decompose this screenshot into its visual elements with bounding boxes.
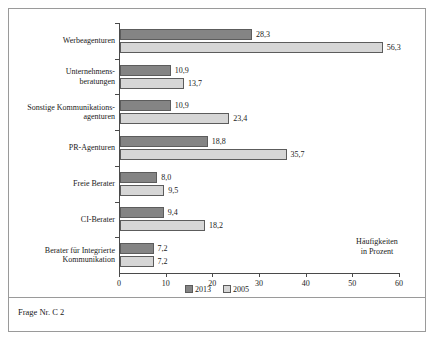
bar-value-label: 56,3 (387, 42, 401, 53)
x-axis-tick (166, 273, 167, 277)
x-axis-tick (306, 273, 307, 277)
bar-2005 (120, 256, 154, 267)
bar-value-label: 18,8 (212, 136, 226, 147)
bar-2005 (120, 185, 164, 196)
bar-group: 18,835,7 (120, 136, 400, 160)
y-axis-tick (115, 237, 119, 238)
chart-plot-container: WerbeagenturenUnternehmens-beratungenSon… (9, 9, 425, 296)
chart-legend: 20132005 (9, 285, 425, 295)
category-label: PR-Agenturen (11, 143, 115, 153)
bar-2013 (120, 29, 252, 40)
chart-figure: WerbeagenturenUnternehmens-beratungenSon… (8, 8, 426, 332)
bar-value-label: 35,7 (291, 149, 305, 160)
x-axis-tick (352, 273, 353, 277)
y-axis-tick (115, 59, 119, 60)
bar-value-label: 7,2 (158, 243, 168, 254)
legend-swatch-icon (223, 285, 231, 293)
y-axis-tick (115, 130, 119, 131)
category-label: Berater für IntegrierteKommunikation (11, 246, 115, 265)
legend-item: 2005 (223, 285, 249, 295)
bar-2005 (120, 149, 287, 160)
category-axis-labels: WerbeagenturenUnternehmens-beratungenSon… (9, 23, 115, 273)
bar-2005 (120, 42, 383, 53)
x-axis-tick (399, 273, 400, 277)
category-label: Unternehmens-beratungen (11, 67, 115, 86)
bar-value-label: 9,5 (168, 185, 178, 196)
bar-group: 10,913,7 (120, 65, 400, 89)
legend-label: 2013 (195, 285, 211, 294)
bar-2013 (120, 207, 164, 218)
bar-2013 (120, 136, 208, 147)
x-axis-title-line2: in Prozent (335, 247, 419, 257)
legend-item: 2013 (185, 285, 211, 295)
bar-2005 (120, 220, 205, 231)
category-label: CI-Berater (11, 215, 115, 225)
category-label: Sonstige Kommunikations-agenturen (11, 103, 115, 122)
x-axis-tick (259, 273, 260, 277)
bar-group: 9,418,2 (120, 207, 400, 231)
y-axis-tick (115, 94, 119, 95)
bar-group: 10,923,4 (120, 100, 400, 124)
footer-divider (9, 297, 425, 298)
bar-2013 (120, 243, 154, 254)
bar-value-label: 9,4 (168, 207, 178, 218)
category-label: Werbeagenturen (11, 36, 115, 46)
x-axis-tick (212, 273, 213, 277)
bar-value-label: 10,9 (175, 100, 189, 111)
bar-plot: 010203040506028,356,310,913,710,923,418,… (119, 23, 399, 273)
category-label: Freie Berater (11, 179, 115, 189)
bar-2005 (120, 78, 184, 89)
legend-label: 2005 (233, 285, 249, 294)
x-axis-tick (119, 273, 120, 277)
bar-group: 28,356,3 (120, 29, 400, 53)
bar-value-label: 7,2 (158, 256, 168, 267)
bar-value-label: 23,4 (233, 113, 247, 124)
bar-2013 (120, 65, 171, 76)
bar-value-label: 8,0 (161, 172, 171, 183)
bar-group: 8,09,5 (120, 172, 400, 196)
y-axis-tick (115, 202, 119, 203)
bar-value-label: 28,3 (256, 29, 270, 40)
footnote-text: Frage Nr. C 2 (18, 307, 64, 318)
y-axis-tick (115, 166, 119, 167)
bar-2005 (120, 113, 229, 124)
bar-value-label: 18,2 (209, 220, 223, 231)
bar-value-label: 10,9 (175, 65, 189, 76)
bar-2013 (120, 172, 157, 183)
x-axis-title: Häufigkeiten in Prozent (335, 237, 419, 257)
bar-2013 (120, 100, 171, 111)
bar-value-label: 13,7 (188, 78, 202, 89)
x-axis-title-line1: Häufigkeiten (335, 237, 419, 247)
y-axis-tick (115, 23, 119, 24)
legend-swatch-icon (185, 285, 193, 293)
